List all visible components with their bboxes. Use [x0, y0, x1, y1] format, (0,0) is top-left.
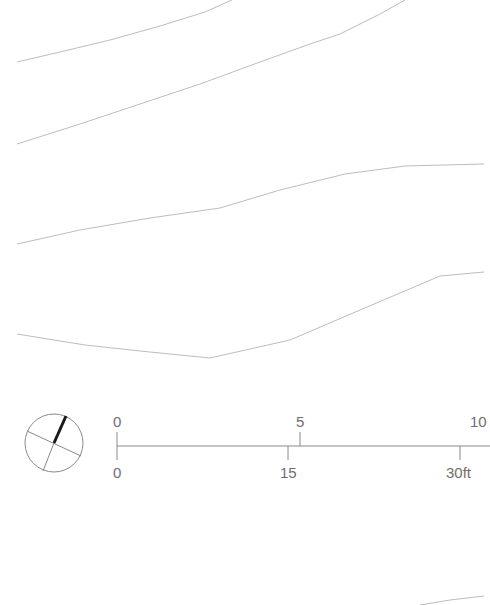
- scale-label-top-5: 5: [296, 413, 304, 430]
- contour-line-c1: [17, 0, 232, 62]
- scale-label-bottom-0: 0: [113, 464, 121, 481]
- north-needle-icon: [54, 416, 66, 443]
- contour-line-c3: [17, 164, 484, 244]
- contour-line-c5: [420, 596, 484, 605]
- scale-label-bottom-15: 15: [280, 464, 297, 481]
- site-plan-drawing: 0 5 10 0 15 30ft: [0, 0, 490, 605]
- contour-line-c4: [17, 272, 484, 358]
- scale-label-top-0: 0: [113, 413, 121, 430]
- scale-bar: 0 5 10 0 15 30ft: [113, 413, 490, 481]
- contour-lines: [17, 0, 484, 605]
- north-arrow-compass: [25, 414, 83, 472]
- scale-label-top-10: 10: [470, 413, 487, 430]
- scale-label-bottom-30ft: 30ft: [446, 464, 472, 481]
- compass-south-axis: [43, 443, 54, 471]
- contour-line-c2: [17, 0, 405, 144]
